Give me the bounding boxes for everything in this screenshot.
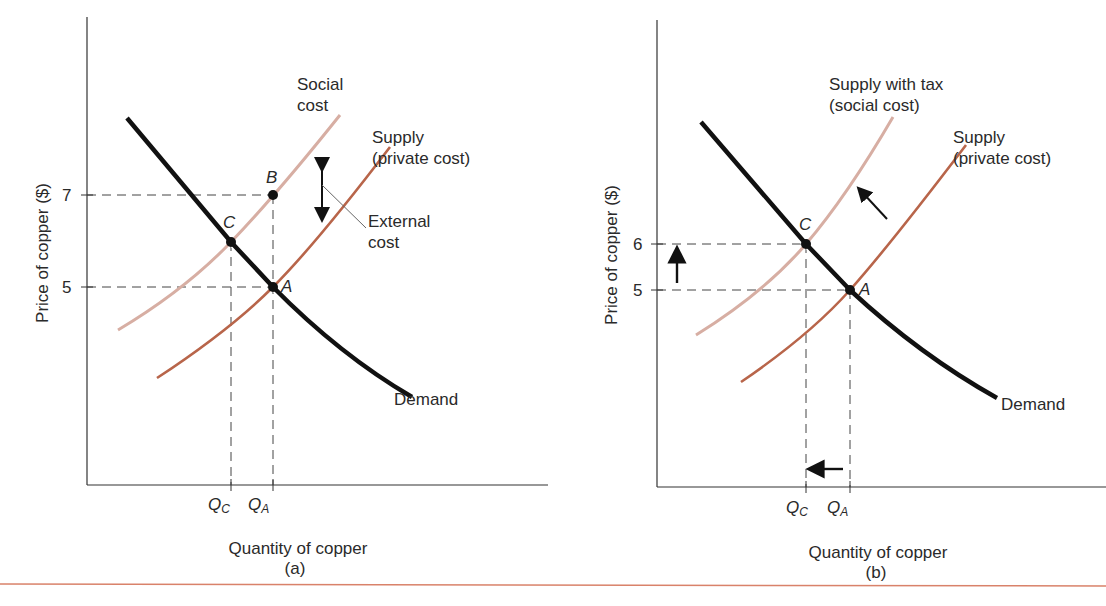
point-b <box>268 190 278 200</box>
xtick-qa: QA <box>827 498 848 519</box>
ytick-7: 7 <box>62 186 71 205</box>
social-cost-label-1: Social <box>297 75 343 94</box>
panel-caption-b: (b) <box>866 563 887 582</box>
y-axis-label: Price of copper ($) <box>602 185 621 325</box>
chart-canvas: B C A External cost Social cost Supply (… <box>0 0 1106 606</box>
point-c <box>801 239 811 249</box>
demand-label: Demand <box>394 390 458 409</box>
supply-label-1: Supply <box>953 128 1005 147</box>
supply-with-tax-label-2: (social cost) <box>829 96 920 115</box>
supply-with-tax-label-1: Supply with tax <box>829 75 944 94</box>
demand-curve <box>127 118 412 397</box>
xtick-qc: QC <box>208 495 230 516</box>
x-axis-label: Quantity of copper <box>229 539 368 558</box>
x-axis-label: Quantity of copper <box>809 543 948 562</box>
social-cost-label-2: cost <box>297 96 328 115</box>
label-a: A <box>858 280 870 299</box>
label-c: C <box>799 215 812 234</box>
panel-caption-a: (a) <box>285 559 306 578</box>
point-c <box>226 237 236 247</box>
supply-label-1: Supply <box>372 128 424 147</box>
external-cost-label-1: External <box>368 212 430 231</box>
bottom-rule <box>0 584 1106 586</box>
y-axis-label: Price of copper ($) <box>33 183 52 323</box>
ytick-5: 5 <box>633 281 642 300</box>
demand-label: Demand <box>1001 395 1065 414</box>
supply-shift-arrow <box>862 192 887 219</box>
external-cost-label-2: cost <box>368 233 399 252</box>
supply-label-2: (private cost) <box>953 149 1051 168</box>
panel-a: B C A External cost Social cost Supply (… <box>33 17 548 578</box>
label-b: B <box>266 168 277 187</box>
label-a: A <box>280 277 292 296</box>
panel-b: C A Supply with tax (social cost) Supply… <box>602 20 1106 582</box>
point-a <box>268 282 278 292</box>
xtick-qa: QA <box>248 495 269 516</box>
ytick-6: 6 <box>633 235 642 254</box>
external-cost-leader <box>322 185 366 228</box>
ytick-5: 5 <box>62 278 71 297</box>
point-a <box>845 285 855 295</box>
label-c: C <box>223 213 236 232</box>
xtick-qc: QC <box>786 498 808 519</box>
supply-label-2: (private cost) <box>372 149 470 168</box>
